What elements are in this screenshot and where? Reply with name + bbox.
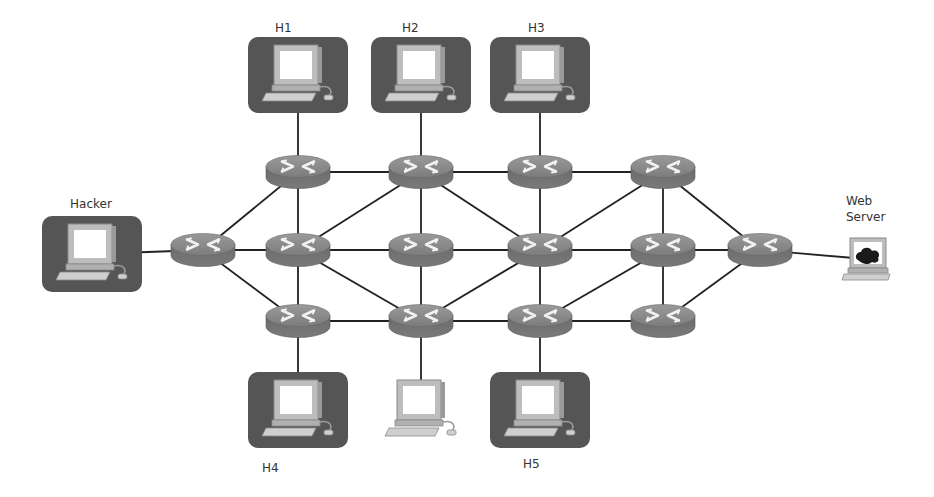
router-icon[interactable] <box>508 234 572 267</box>
screen <box>403 51 435 79</box>
host-label: H4 <box>262 461 279 475</box>
host-label: H1 <box>275 21 292 35</box>
screen <box>280 51 312 79</box>
router-icon[interactable] <box>631 305 695 338</box>
screen <box>280 386 312 414</box>
server-label-line2: Server <box>846 210 885 224</box>
router-icon[interactable] <box>389 156 453 189</box>
host-pc[interactable] <box>385 380 456 436</box>
screen <box>522 386 554 414</box>
network-diagram: H1H2H3HackerH4H5 WebServer <box>0 0 934 497</box>
routers-layer <box>171 156 792 338</box>
host-h5[interactable] <box>490 372 590 448</box>
host-hacker[interactable] <box>42 216 142 292</box>
host-label: H2 <box>402 21 419 35</box>
router-icon[interactable] <box>631 156 695 189</box>
router-icon[interactable] <box>508 156 572 189</box>
host-h3[interactable] <box>490 37 590 113</box>
server-label-line1: Web <box>846 194 872 208</box>
host-h2[interactable] <box>371 37 471 113</box>
router-icon[interactable] <box>508 305 572 338</box>
host-label: H5 <box>523 457 540 471</box>
router-icon[interactable] <box>389 305 453 338</box>
router-icon[interactable] <box>631 234 695 267</box>
host-h4[interactable] <box>248 372 348 448</box>
router-icon[interactable] <box>266 305 330 338</box>
screen <box>403 386 435 414</box>
router-icon[interactable] <box>389 234 453 267</box>
router-icon[interactable] <box>728 234 792 267</box>
router-icon[interactable] <box>171 234 235 267</box>
router-icon[interactable] <box>266 156 330 189</box>
screen <box>74 230 106 258</box>
server-icon <box>842 238 890 280</box>
screen <box>522 51 554 79</box>
host-label: Hacker <box>70 197 112 211</box>
host-label: H3 <box>528 21 545 35</box>
host-h1[interactable] <box>248 37 348 113</box>
web-server[interactable]: WebServer <box>842 194 890 280</box>
router-icon[interactable] <box>266 234 330 267</box>
